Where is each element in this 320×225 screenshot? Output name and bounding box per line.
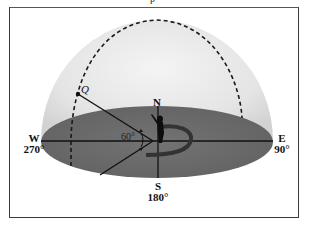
south-label: S 180° bbox=[146, 181, 170, 203]
east-degrees: 90° bbox=[272, 144, 292, 155]
horizon-plane bbox=[41, 106, 273, 178]
q-label: Q bbox=[81, 83, 89, 95]
angle-label: 60° bbox=[121, 131, 135, 142]
south-degrees: 180° bbox=[146, 192, 170, 203]
point-q bbox=[76, 92, 80, 96]
east-label: E 90° bbox=[272, 133, 292, 155]
west-label: W 270° bbox=[22, 133, 46, 155]
north-label: N bbox=[153, 97, 161, 108]
west-degrees: 270° bbox=[22, 144, 46, 155]
